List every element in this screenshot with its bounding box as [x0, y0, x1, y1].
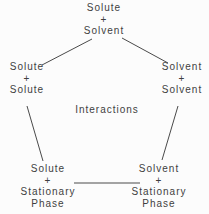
node-solute-solute: Solute + Solute: [10, 61, 44, 96]
node-line: Solute: [87, 2, 121, 14]
plus-sign: +: [101, 14, 108, 26]
node-line: Phase: [31, 198, 64, 210]
plus-sign: +: [24, 73, 31, 85]
node-solvent-solvent: Solvent + Solvent: [162, 61, 202, 96]
node-line: Solvent: [162, 61, 202, 73]
node-solute-stationary-phase: Solute + Stationary Phase: [20, 163, 75, 209]
edge-right-to-bottom-right: [162, 106, 178, 160]
interactions-pentagon-diagram: Solute + Solvent Solute + Solute Solvent…: [0, 0, 209, 214]
node-line: Stationary: [131, 186, 186, 198]
edge-top-to-left: [42, 39, 92, 65]
node-solute-solvent: Solute + Solvent: [84, 2, 124, 37]
node-line: Solute: [10, 61, 44, 73]
node-line: Stationary: [20, 186, 75, 198]
node-line: Solvent: [162, 84, 202, 96]
edge-left-to-bottom-left: [27, 106, 43, 161]
node-line: Solute: [31, 163, 65, 175]
edge-top-to-right: [122, 38, 168, 63]
plus-sign: +: [45, 175, 52, 187]
node-line: Solvent: [139, 163, 179, 175]
node-solvent-stationary-phase: Solvent + Stationary Phase: [131, 163, 186, 209]
node-line: Solute: [10, 84, 44, 96]
plus-sign: +: [156, 175, 163, 187]
node-line: Phase: [142, 198, 175, 210]
center-interactions-label: Interactions: [75, 104, 139, 116]
plus-sign: +: [179, 73, 186, 85]
node-line: Solvent: [84, 25, 124, 37]
